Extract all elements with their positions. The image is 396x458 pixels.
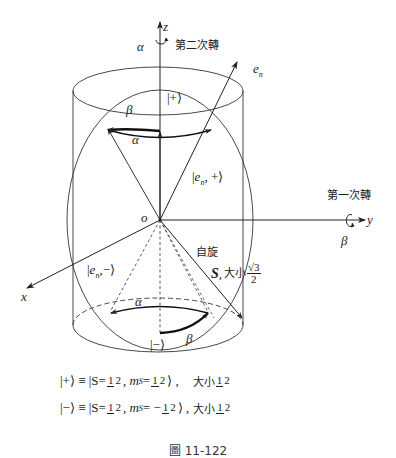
z-axis-label: z — [163, 20, 168, 33]
beta-arc-top — [108, 129, 160, 131]
rotation-icon-z — [156, 38, 168, 44]
ket-plus-label: |+⟩ — [167, 91, 182, 104]
figure-caption: 圖 11-122 — [0, 441, 396, 458]
beta-arc-bottom — [160, 313, 208, 333]
origin-label: o — [141, 211, 148, 224]
cylinder-top-ellipse — [73, 67, 243, 115]
alpha-bottom-label: α — [135, 295, 142, 308]
en-axis — [160, 62, 237, 220]
alpha-arc-bottom — [111, 307, 208, 314]
spin-magnitude-label: S , 大小 √32 — [211, 262, 262, 285]
x-axis-label: x — [21, 290, 27, 303]
lower-cone-dashed — [110, 220, 208, 333]
spin-label: 自旋 — [196, 247, 218, 258]
cylinder — [73, 67, 243, 352]
ket-minus-label: |−⟩ — [150, 338, 165, 351]
second-rotation-angle: α — [137, 40, 144, 53]
en-axis-label: en — [253, 62, 263, 79]
beta-top-label: β — [126, 103, 132, 116]
first-rotation-label: 第一次轉 — [327, 190, 371, 201]
equation-plus: |+⟩ ≡ |S= 12 , mS = 12 ⟩ , 大小 12 — [60, 373, 232, 389]
origin-point — [159, 219, 162, 222]
alpha-top-label: α — [132, 133, 139, 146]
beta-bottom-label: β — [186, 332, 192, 345]
rotation-icon-y — [346, 215, 354, 228]
cylinder-bottom-back — [73, 298, 243, 325]
en-minus-ket-label: |en,−⟩ — [87, 263, 115, 280]
second-rotation-label: 第二次轉 — [175, 40, 219, 51]
first-rotation-angle: β — [341, 234, 347, 247]
y-axis-label: y — [367, 213, 373, 226]
lower-cone-dashed-right2 — [163, 225, 214, 318]
en-plus-ket-label: |en, +⟩ — [192, 170, 223, 187]
equation-minus: |−⟩ ≡ |S= 12 , mS = − 12 ⟩ , 大小 12 — [60, 400, 232, 416]
